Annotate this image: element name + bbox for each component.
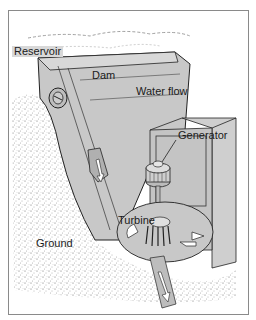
intake-gate-icon [49, 88, 67, 108]
label-turbine: Turbine [118, 215, 155, 226]
label-dam: Dam [92, 70, 115, 81]
reservoir-surface [28, 31, 190, 38]
label-ground: Ground [36, 238, 73, 249]
label-reservoir: Reservoir [12, 46, 63, 57]
label-generator: Generator [178, 130, 228, 141]
label-water-flow: Water flow [136, 86, 188, 97]
turbine-icon [117, 202, 213, 262]
generator-icon [146, 161, 170, 187]
